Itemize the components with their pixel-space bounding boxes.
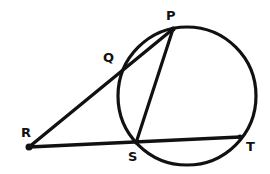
label-Q: Q — [103, 51, 114, 64]
diagram-svg — [0, 0, 270, 174]
label-S: S — [128, 150, 137, 163]
geometry-diagram: P Q R S T — [0, 0, 270, 174]
point-T-dot — [238, 135, 243, 140]
secant-line-RP — [29, 29, 173, 147]
circle — [118, 27, 256, 165]
label-T: T — [246, 140, 255, 153]
point-P-dot — [171, 27, 176, 32]
point-R-dot — [26, 144, 33, 151]
label-P: P — [166, 9, 176, 22]
label-R: R — [21, 126, 31, 139]
